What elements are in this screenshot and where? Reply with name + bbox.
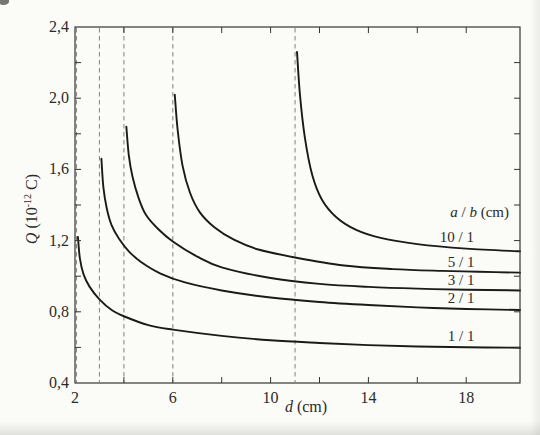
curve-10-1 [297,52,520,251]
y-tick-label: 0,8 [49,303,69,320]
annotation-text: / [458,204,470,220]
label-2-1: 2 / 1 [448,290,475,306]
annotation-text: 1 / 1 [448,328,475,344]
annotation-text: a [450,204,458,220]
x-tick-label: 18 [458,389,474,406]
y-axis-title: Q (10-12 C) [23,144,45,274]
label-10-1: 10 / 1 [440,229,474,245]
capacitance-vs-distance-chart: 261014182,42,01,61,20,80,4a / b (cm)10 /… [0,0,540,435]
scan-shadow-right [530,0,540,435]
label-1-1: 1 / 1 [448,328,475,344]
curve-5-1 [175,95,520,273]
x-tick-label: 14 [360,389,376,406]
y-tick-label: 2,0 [49,89,69,106]
figure-page: 261014182,42,01,61,20,80,4a / b (cm)10 /… [0,0,540,435]
x-tick-label: 6 [169,389,177,406]
annotation-text: (cm) [477,204,509,221]
legend-title: a / b (cm) [450,204,509,221]
y-tick-label: 2,4 [49,18,69,35]
y-axis-symbol: Q [23,233,40,245]
y-tick-label: 1,6 [49,160,69,177]
annotation-text: 2 / 1 [448,290,475,306]
x-axis-title: d (cm) [256,398,356,416]
y-axis-exponent: -12 [22,194,33,207]
label-3-1: 3 / 1 [448,272,475,288]
label-5-1: 5 / 1 [448,254,475,270]
y-tick-label: 1,2 [49,232,69,249]
x-tick-label: 2 [71,389,79,406]
y-tick-label: 0,4 [49,374,69,391]
annotation-text: 10 / 1 [440,229,474,245]
x-axis-symbol: d [285,398,293,415]
scan-shadow-bottom [0,421,540,435]
annotation-text: 3 / 1 [448,272,475,288]
annotation-text: 5 / 1 [448,254,475,270]
